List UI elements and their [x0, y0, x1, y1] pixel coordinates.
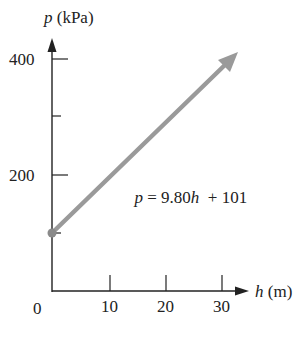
x-axis-var: h	[255, 282, 264, 301]
tick-label-20: 20	[157, 298, 174, 315]
eq-var-p: p	[135, 188, 144, 207]
y-axis-label: p (kPa)	[44, 9, 94, 26]
eq-intercept: + 101	[199, 188, 247, 207]
tick-label-400: 400	[9, 51, 35, 68]
tick-label-0: 0	[33, 300, 42, 317]
data-line	[52, 62, 228, 233]
tick-label-200: 200	[9, 167, 35, 184]
y-axis-var: p	[44, 8, 53, 27]
x-axis-arrow-icon	[235, 287, 249, 296]
equation-annotation: p = 9.80h + 101	[126, 172, 247, 206]
x-axis-unit: (m)	[264, 282, 293, 301]
x-axis-label: h (m)	[255, 283, 292, 300]
eq-coefficient: = 9.80	[143, 188, 191, 207]
data-start-marker	[48, 229, 57, 238]
y-axis-arrow-icon	[48, 38, 57, 52]
tick-label-10: 10	[101, 298, 118, 315]
tick-label-30: 30	[213, 298, 230, 315]
y-axis-unit: (kPa)	[53, 8, 94, 27]
